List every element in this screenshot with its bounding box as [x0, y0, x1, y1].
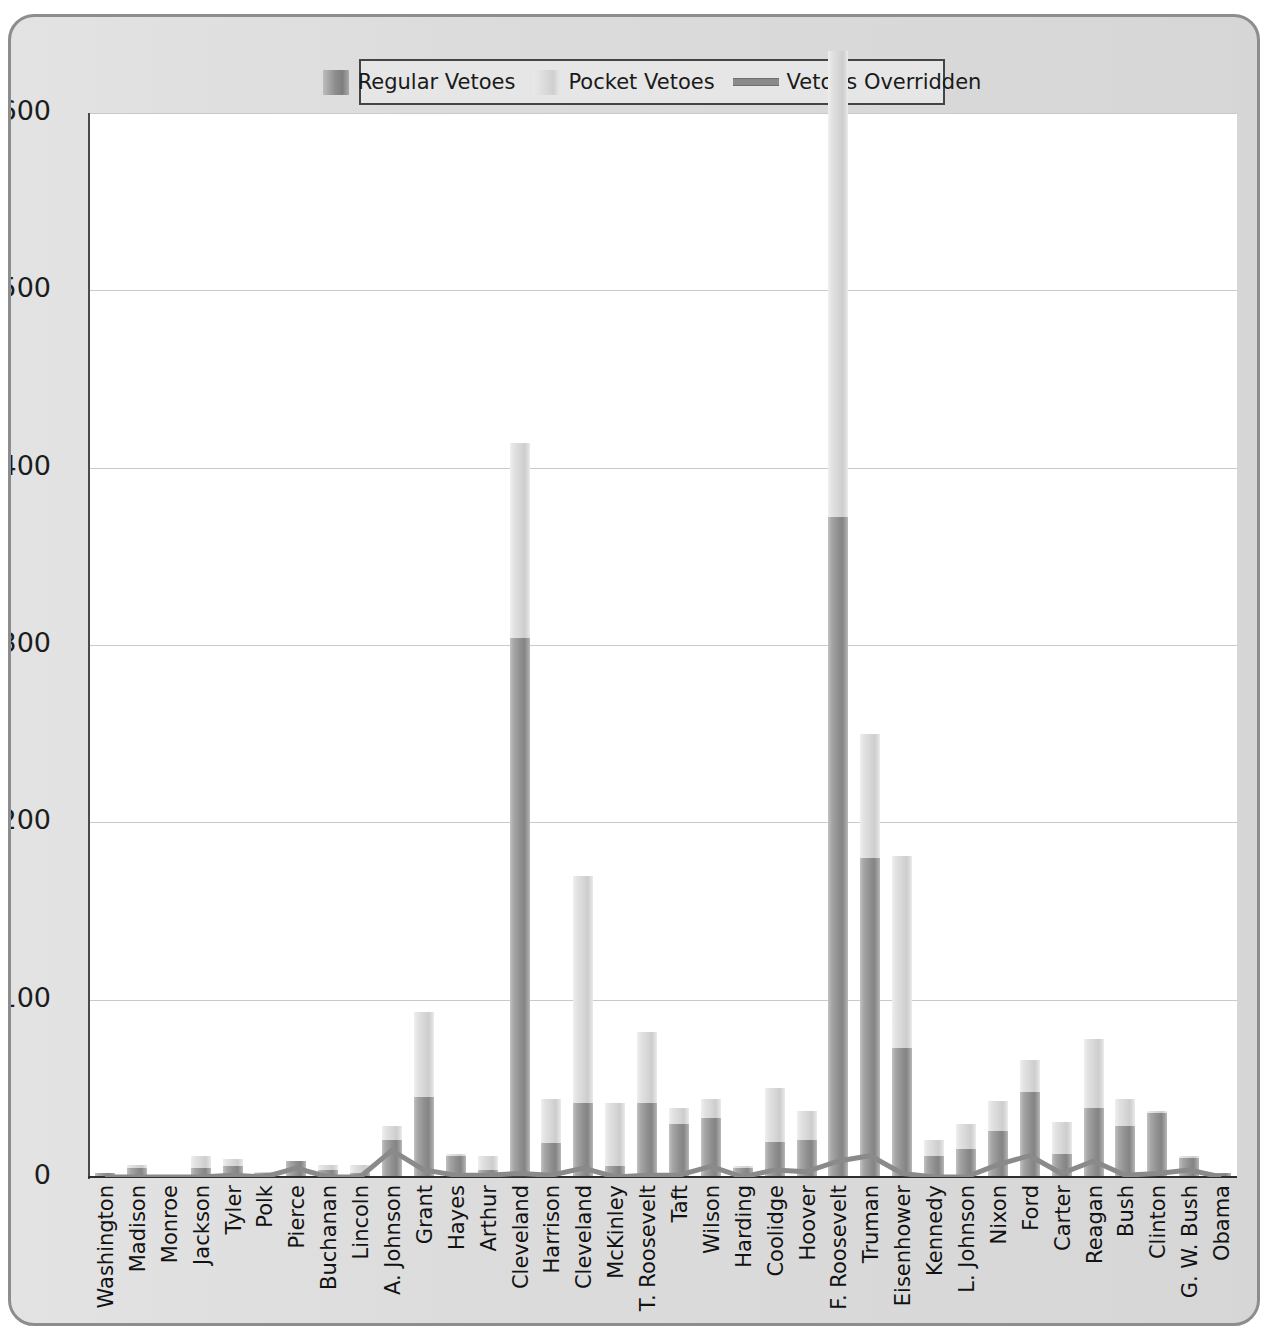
legend-label-regular-vetoes: Regular Vetoes: [358, 70, 516, 94]
chart-frame: Regular Vetoes Pocket Vetoes Vetoes Over…: [8, 14, 1260, 1326]
x-axis-tick-label: Cleveland: [572, 1185, 596, 1289]
x-axis-tick-label: Hoover: [796, 1185, 820, 1260]
y-axis-tick-label: 0: [8, 1159, 51, 1190]
chart-legend: Regular Vetoes Pocket Vetoes Vetoes Over…: [359, 59, 945, 105]
y-axis-tick-label: 600: [8, 95, 51, 126]
legend-item-pocket-vetoes: Pocket Vetoes: [533, 70, 714, 95]
x-axis-tick-label: F. Roosevelt: [827, 1185, 851, 1310]
y-axis-tick-label: 300: [8, 627, 51, 658]
y-axis-tick-label: 500: [8, 272, 51, 303]
x-axis-tick-label: Grant: [413, 1185, 437, 1244]
legend-label-vetoes-overridden: Vetoes Overridden: [787, 70, 982, 94]
y-axis-tick-label: 100: [8, 982, 51, 1013]
x-axis-tick-label: Truman: [859, 1185, 883, 1263]
pocket-vetoes-swatch-icon: [533, 70, 559, 95]
x-axis-tick-label: Cleveland: [509, 1185, 533, 1289]
x-axis-tick-label: Reagan: [1083, 1185, 1107, 1264]
vetoes-overridden-line-icon: [733, 78, 779, 86]
x-axis-tick-label: T. Roosevelt: [636, 1185, 660, 1311]
x-axis-tick-label: Clinton: [1146, 1185, 1170, 1259]
x-axis-tick-label: Kennedy: [923, 1185, 947, 1276]
x-axis-tick-label: Harding: [732, 1185, 756, 1268]
x-axis-tick-label: Coolidge: [764, 1185, 788, 1277]
x-axis-tick-label: Jackson: [190, 1185, 214, 1265]
x-axis-tick-label: Carter: [1051, 1185, 1075, 1251]
x-axis-tick-label: Harrison: [540, 1185, 564, 1274]
x-axis-tick-label: Nixon: [987, 1185, 1011, 1244]
x-axis-tick-label: Pierce: [285, 1185, 309, 1249]
x-axis-tick-label: L. Johnson: [955, 1185, 979, 1293]
regular-vetoes-swatch-icon: [323, 70, 349, 95]
x-axis-tick-label: Monroe: [158, 1185, 182, 1263]
x-axis-tick-label: Bush: [1114, 1185, 1138, 1237]
x-axis-tick-label: Tyler: [222, 1185, 246, 1234]
x-axis-tick-label: Washington: [94, 1185, 118, 1308]
x-axis-tick-label: Ford: [1019, 1185, 1043, 1231]
x-axis-tick-label: Obama: [1210, 1185, 1234, 1261]
legend-item-regular-vetoes: Regular Vetoes: [323, 70, 516, 95]
legend-label-pocket-vetoes: Pocket Vetoes: [568, 70, 714, 94]
y-axis-tick-label: 400: [8, 450, 51, 481]
x-axis-tick-label: Lincoln: [349, 1185, 373, 1259]
x-axis-tick-label: G. W. Bush: [1178, 1185, 1202, 1298]
x-axis-tick-label: Madison: [126, 1185, 150, 1272]
x-axis-tick-label: Eisenhower: [891, 1185, 915, 1306]
y-axis-tick-label: 200: [8, 804, 51, 835]
x-axis-tick-label: McKinley: [604, 1185, 628, 1279]
x-axis-tick-label: A. Johnson: [381, 1185, 405, 1295]
x-axis-tick-label: Hayes: [445, 1185, 469, 1250]
x-axis-tick-label: Buchanan: [317, 1185, 341, 1290]
legend-item-vetoes-overridden: Vetoes Overridden: [733, 70, 982, 94]
vetoes-overridden-line: [89, 113, 1237, 1177]
x-axis-tick-label: Wilson: [700, 1185, 724, 1254]
x-axis-tick-label: Polk: [253, 1185, 277, 1228]
x-axis-tick-label: Taft: [668, 1185, 692, 1222]
x-axis-tick-label: Arthur: [477, 1185, 501, 1252]
